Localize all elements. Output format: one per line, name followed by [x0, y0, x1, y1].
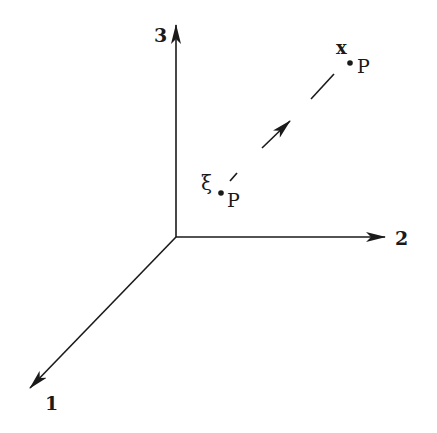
path-dash-1	[230, 173, 237, 181]
point-xi-symbol: ξ	[201, 173, 212, 193]
path-dash-2	[311, 74, 334, 99]
axis-2-label: 2	[395, 229, 408, 248]
axis-1-label: 1	[45, 394, 58, 413]
point-xi-p-dot	[218, 190, 224, 196]
path-arrow	[262, 121, 290, 148]
point-x-p-dot	[347, 60, 353, 66]
axis-3-label: 3	[154, 26, 167, 45]
coordinate-diagram	[0, 0, 437, 433]
point-xi-subscript: P	[227, 191, 240, 210]
axis-1-line	[30, 237, 176, 388]
point-x-symbol: x	[336, 39, 347, 57]
point-x-subscript: P	[357, 57, 370, 76]
